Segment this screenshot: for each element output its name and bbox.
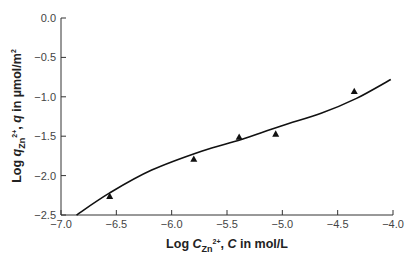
chart: −7.0−6.5−6.0−5.5−5.0−4.5−4.0 0.0−0.5−1.0… (0, 0, 411, 263)
x-tick-label: −6.0 (161, 218, 183, 230)
x-axis-title: Log CZn2+, C in mol/L (166, 237, 288, 254)
x-tick-label: −4.0 (382, 218, 404, 230)
y-axis-title: Log qZn2+, q in µmol/m2 (10, 49, 27, 183)
x-tick-label: −6.5 (105, 218, 127, 230)
triangle-marker-icon (190, 156, 197, 162)
x-tick-label: −5.5 (216, 218, 238, 230)
y-tick-label: 0.0 (41, 12, 56, 24)
x-tick-label: −5.0 (271, 218, 293, 230)
fit-curve (77, 80, 391, 216)
data-points (106, 88, 358, 199)
x-tick-label: −4.5 (327, 218, 349, 230)
y-tick-label: −1.0 (34, 91, 56, 103)
triangle-marker-icon (351, 88, 358, 94)
triangle-marker-icon (236, 133, 243, 139)
fit-curve-line (77, 80, 391, 216)
y-tick-label: −2.0 (34, 170, 56, 182)
y-tick-label: −2.5 (34, 209, 56, 221)
y-axis: 0.0−0.5−1.0−1.5−2.0−2.5 (34, 12, 66, 221)
triangle-marker-icon (272, 130, 279, 136)
y-tick-label: −1.5 (34, 130, 56, 142)
x-axis: −7.0−6.5−6.0−5.5−5.0−4.5−4.0 (50, 210, 404, 230)
y-tick-label: −0.5 (34, 51, 56, 63)
